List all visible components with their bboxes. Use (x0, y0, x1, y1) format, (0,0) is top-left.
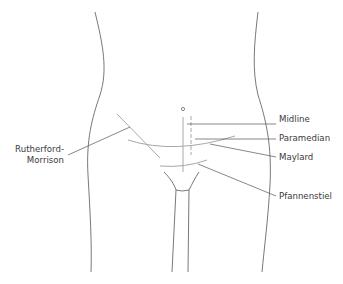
rutherford-morrison-leader (68, 127, 130, 155)
rutherford-morrison-label-line2: Morrison (10, 155, 64, 165)
maylard-label: Maylard (279, 152, 313, 162)
rutherford-morrison-label: Rutherford- Morrison (10, 144, 64, 165)
pfannenstiel-label: Pfannenstiel (279, 191, 332, 201)
left-inner-thigh (164, 172, 176, 272)
right-body-outline (254, 12, 270, 272)
pfannenstiel-leader (198, 164, 276, 196)
maylard-leader (210, 144, 276, 157)
perineum-curve (176, 190, 189, 191)
left-body-outline (88, 12, 104, 272)
midline-label: Midline (279, 114, 310, 124)
abdominal-incisions-diagram: Midline Paramedian Maylard Pfannenstiel … (0, 0, 343, 284)
right-inner-thigh (188, 172, 199, 272)
rutherford-morrison-incision (117, 114, 160, 158)
paramedian-label: Paramedian (279, 133, 330, 143)
umbilicus (181, 107, 184, 110)
rutherford-morrison-label-line1: Rutherford- (10, 144, 64, 154)
